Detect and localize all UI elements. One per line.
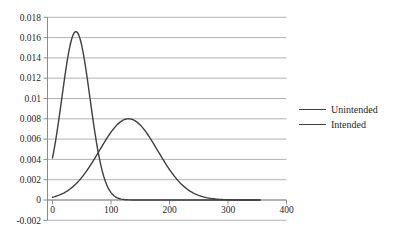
line-marker-icon [299, 124, 326, 125]
y-tick-label: 0.012 [20, 73, 42, 83]
y-tick-label: 0.006 [20, 134, 42, 144]
legend-item-intended: Intended [299, 118, 378, 130]
y-tick-label: 0.016 [20, 33, 42, 43]
x-tick-label: 100 [104, 205, 119, 215]
legend-label-unintended: Unintended [331, 104, 378, 115]
y-tick-label: 0.002 [20, 175, 42, 185]
line-marker-icon [299, 109, 326, 110]
y-tick-label: 0.008 [20, 114, 42, 124]
y-tick-label: 0 [36, 195, 41, 205]
legend-label-intended: Intended [331, 119, 366, 130]
y-tick-label: -0.002 [16, 216, 41, 226]
y-tick-label: 0.014 [20, 53, 42, 63]
chart-figure: -0.00200.0020.0040.0060.0080.010.0120.01… [0, 0, 406, 240]
y-tick-label: 0.018 [20, 13, 42, 23]
x-tick-label: 0 [50, 205, 55, 215]
y-tick-label: 0.01 [24, 94, 41, 104]
y-tick-label: 0.004 [20, 155, 42, 165]
x-tick-label: 300 [221, 205, 236, 215]
legend-item-unintended: Unintended [299, 103, 378, 115]
legend: Unintended Intended [299, 103, 378, 130]
x-tick-label: 400 [279, 205, 294, 215]
x-tick-label: 200 [162, 205, 177, 215]
